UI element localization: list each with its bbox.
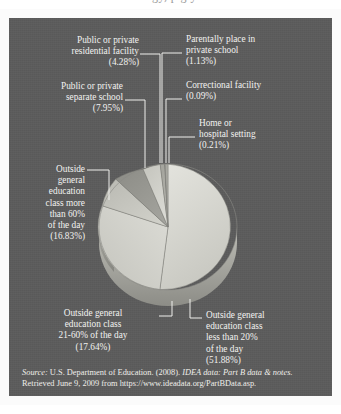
source-prefix: Source: [22,368,48,377]
leader-parentally-placed [162,53,182,163]
label-residential-facility: Public or private residential facility (… [29,35,139,69]
source-line1-italic: IDEA data: Part B data & notes. [182,368,292,377]
label-home-hospital: Home or hospital setting (0.21%) [199,118,327,152]
label-correctional-facility: Correctional facility (0.09%) [186,80,326,102]
label-less-than-20: Outside general education class less tha… [206,310,326,366]
figure-frame: Public or private residential facility (… [0,9,341,405]
cropped-title-remnant: gy, p g y [152,0,197,4]
cropped-title-strip: gy, p g y [0,0,341,9]
chart-panel: Public or private residential facility (… [9,18,332,396]
source-line1-plain: U.S. Department of Education. (2008). [48,368,182,377]
label-21-60: Outside general education class 21-60% o… [29,308,157,353]
label-more-than-60: Outside general education class more tha… [17,164,85,242]
leader-home-hospital [169,137,195,163]
leader-correctional-facility [166,99,182,163]
source-note-line1: Source: U.S. Department of Education. (2… [22,367,322,378]
label-parentally-placed: Parentally place in private school (1.13… [186,34,326,68]
label-separate-school: Public or private separate school (7.95%… [25,81,123,115]
leader-separate-school [125,100,145,168]
leader-residential-facility [140,54,160,163]
source-note-line2: Retrieved June 9, 2009 from https://www.… [22,378,322,389]
